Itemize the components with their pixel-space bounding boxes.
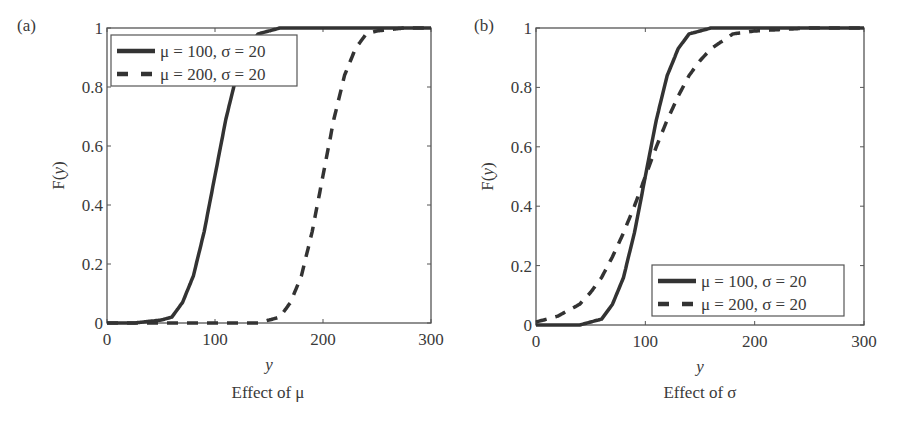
y-tick-label: 1 <box>524 19 533 38</box>
x-tick-label: 100 <box>202 330 228 349</box>
axes: 00.20.40.60.810100200300yF(y) <box>478 19 877 376</box>
y-tick-label: 0.6 <box>82 137 103 156</box>
y-tick-label: 0.6 <box>511 138 532 157</box>
y-tick-label: 0.8 <box>82 78 103 97</box>
caption-a: Effect of μ <box>168 383 368 403</box>
legend: μ = 100, σ = 20μ = 200, σ = 20 <box>652 265 844 316</box>
caption-b: Effect of σ <box>600 383 800 403</box>
y-tick-label: 0 <box>524 316 533 335</box>
legend-label-2: μ = 200, σ = 20 <box>160 65 265 84</box>
y-tick-label: 0.4 <box>511 197 533 216</box>
y-tick-label: 0 <box>95 314 104 333</box>
x-axis-title: y <box>694 357 704 376</box>
panel-a: (a) 00.20.40.60.810100200300yF(y)μ = 100… <box>0 0 458 421</box>
legend-label-1: μ = 100, σ = 20 <box>701 272 806 291</box>
x-axis-title: y <box>263 355 273 374</box>
y-tick-label: 0.2 <box>511 257 532 276</box>
x-tick-label: 200 <box>742 332 768 351</box>
x-tick-label: 300 <box>418 330 444 349</box>
y-tick-label: 0.2 <box>82 255 103 274</box>
y-axis-title: F(y) <box>49 161 68 189</box>
chart-b: 00.20.40.60.810100200300yF(y)μ = 100, σ … <box>458 0 916 421</box>
y-tick-label: 0.4 <box>82 196 104 215</box>
legend-label-1: μ = 100, σ = 20 <box>160 42 265 61</box>
legend: μ = 100, σ = 20μ = 200, σ = 20 <box>111 35 297 86</box>
x-tick-label: 0 <box>532 332 541 351</box>
y-axis-title: F(y) <box>478 162 497 190</box>
legend-label-2: μ = 200, σ = 20 <box>701 295 806 314</box>
x-tick-label: 200 <box>310 330 336 349</box>
x-tick-label: 100 <box>633 332 659 351</box>
y-tick-label: 1 <box>95 19 104 38</box>
panel-b: (b) 00.20.40.60.810100200300yF(y)μ = 100… <box>458 0 916 421</box>
y-tick-label: 0.8 <box>511 78 532 97</box>
x-tick-label: 0 <box>103 330 112 349</box>
chart-a: 00.20.40.60.810100200300yF(y)μ = 100, σ … <box>0 0 458 421</box>
x-tick-label: 300 <box>851 332 877 351</box>
